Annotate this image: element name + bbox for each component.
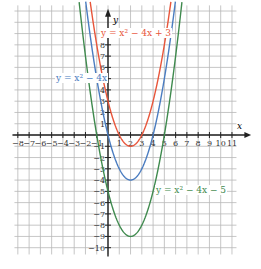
svg-text:8: 8	[196, 139, 201, 148]
svg-text:9: 9	[207, 139, 212, 148]
svg-text:−6: −6	[93, 199, 105, 208]
axes	[12, 9, 251, 257]
svg-text:−10: −10	[88, 244, 105, 253]
svg-text:−4: −4	[57, 139, 69, 148]
svg-text:−9: −9	[93, 232, 105, 241]
svg-text:−7: −7	[23, 139, 35, 148]
svg-text:8: 8	[100, 41, 105, 50]
svg-text:−7: −7	[93, 210, 105, 219]
svg-text:−2: −2	[80, 139, 92, 148]
grid-lines	[14, 5, 236, 254]
svg-text:−5: −5	[93, 187, 105, 196]
svg-text:−6: −6	[34, 139, 46, 148]
svg-text:11: 11	[227, 139, 237, 148]
label-blue-curve: y = x² − 4x	[55, 73, 108, 83]
y-axis-label: y	[112, 15, 119, 25]
x-axis-label: x	[236, 121, 243, 131]
svg-text:7: 7	[184, 139, 189, 148]
svg-text:6: 6	[173, 139, 178, 148]
svg-text:−3: −3	[68, 139, 80, 148]
tick-labels: −8−7−6−5−4−3−2−11234567891011−10−9−8−7−6…	[12, 41, 237, 253]
label-red-curve: y = x² − 4x + 3	[100, 28, 172, 38]
svg-text:3: 3	[139, 139, 144, 148]
svg-text:−8: −8	[93, 221, 105, 230]
svg-text:−4: −4	[93, 176, 105, 185]
svg-text:10: 10	[216, 139, 226, 148]
svg-text:−5: −5	[46, 139, 58, 148]
svg-text:−8: −8	[12, 139, 24, 148]
label-green-curve: y = x² − 4x − 5	[155, 185, 227, 195]
svg-text:−2: −2	[93, 154, 105, 163]
svg-text:7: 7	[100, 52, 105, 61]
svg-text:1: 1	[117, 139, 122, 148]
coordinate-plane: −8−7−6−5−4−3−2−11234567891011−10−9−8−7−6…	[0, 0, 261, 269]
